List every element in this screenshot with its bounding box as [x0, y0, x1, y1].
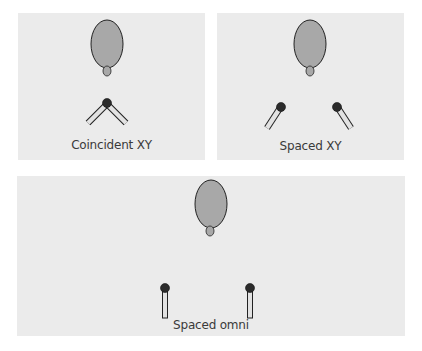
spaced-xy-diagram [217, 13, 404, 160]
microphone-icon [246, 284, 255, 319]
microphone-icon [333, 103, 352, 129]
panel-spaced-omni: Spaced omni [17, 176, 405, 336]
caption-coincident-xy: Coincident XY [18, 138, 205, 152]
panel-spaced-xy: Spaced XY [217, 13, 404, 160]
microphone-icon [161, 284, 170, 319]
listener-head-icon [195, 180, 227, 236]
listener-head-icon [91, 20, 123, 76]
caption-spaced-xy: Spaced XY [217, 139, 404, 153]
microphone-icon [267, 103, 286, 129]
listener-head-icon [294, 20, 326, 76]
spaced-omni-diagram [17, 176, 405, 336]
caption-spaced-omni: Spaced omni [17, 318, 405, 332]
mic-capsule-icon [103, 99, 112, 108]
panel-coincident-xy: Coincident XY [18, 13, 205, 160]
